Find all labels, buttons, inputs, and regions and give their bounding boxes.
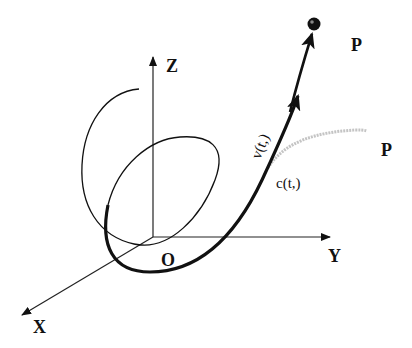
sphere-point (308, 18, 321, 31)
origin-label: O (161, 250, 175, 270)
z-axis-label: Z (166, 56, 178, 76)
point-label-upper: P (351, 35, 362, 55)
y-axis-label: Y (328, 246, 341, 266)
x-axis (22, 237, 153, 315)
curve-label: c(t,) (276, 175, 301, 192)
velocity-arrow (290, 34, 312, 112)
x-axis-label: X (33, 317, 46, 337)
point-label-lower: P (381, 140, 392, 160)
curve-diagram: Z Y X O P P c(t,) v(t,) (0, 0, 412, 348)
curve-c (106, 96, 298, 272)
thin-spiral-outer (82, 89, 219, 245)
velocity-label: v(t,) (248, 132, 273, 162)
